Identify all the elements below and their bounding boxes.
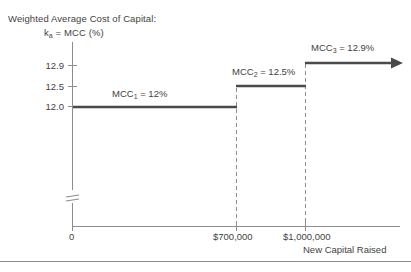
annotation-mcc3-prefix: MCC — [311, 42, 333, 53]
annotation-mcc3-subscript: 3 — [333, 47, 337, 54]
y-tick-label-12-5: 12.5 — [34, 81, 64, 92]
annotation-mcc1-prefix: MCC — [112, 88, 134, 99]
figure-bottom-rule — [0, 261, 411, 262]
mcc-step-chart: Weighted Average Cost of Capital: ka = M… — [0, 0, 411, 272]
annotation-mcc1: MCC1 = 12% — [112, 88, 167, 99]
step-arrowhead-mcc3 — [391, 58, 403, 69]
y-axis-break-mark-upper — [66, 195, 79, 197]
annotation-mcc1-subscript: 1 — [134, 93, 138, 100]
annotation-mcc2: MCC2 = 12.5% — [232, 66, 295, 77]
x-axis-title: New Capital Raised — [303, 244, 386, 255]
annotation-mcc2-subscript: 2 — [254, 71, 258, 78]
annotation-mcc2-prefix: MCC — [232, 66, 254, 77]
annotation-mcc2-suffix: = 12.5% — [258, 66, 296, 77]
y-tick-label-12-0: 12.0 — [34, 101, 64, 112]
y-axis-break-mark-lower — [66, 199, 79, 201]
x-tick-label-0: 0 — [69, 231, 74, 242]
plot-area — [0, 0, 411, 272]
x-tick-label-700000: $700,000 — [213, 231, 253, 242]
y-tick-label-12-9: 12.9 — [34, 60, 64, 71]
annotation-mcc3-suffix: = 12.9% — [337, 42, 375, 53]
annotation-mcc1-suffix: = 12% — [138, 88, 168, 99]
x-tick-label-1000000: $1,000,000 — [283, 231, 331, 242]
annotation-mcc3: MCC3 = 12.9% — [311, 42, 374, 53]
